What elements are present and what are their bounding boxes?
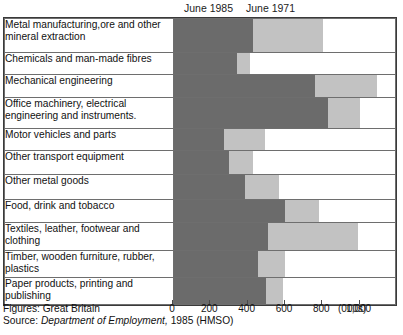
chart-row: Motor vehicles and parts <box>5 129 396 151</box>
bar-june-1971 <box>237 53 250 74</box>
footer-source-line: Source: Department of Employment, 1985 (… <box>3 315 263 327</box>
chart-row: Other metal goods <box>5 175 396 200</box>
chart-legend: June 1985 June 1971 <box>0 0 403 17</box>
row-category-label: Office machinery, electrical engineering… <box>5 98 174 129</box>
footer-figures-label: Figures: <box>3 303 40 314</box>
bar-june-1971 <box>224 129 265 150</box>
chart-row: Chemicals and man-made fibres <box>5 53 396 75</box>
chart-row: Food, drink and tobacco <box>5 200 396 223</box>
row-category-label: Other transport equipment <box>5 151 174 175</box>
row-bar-cell <box>174 151 396 175</box>
footer-source-year: 1985 (HMSO) <box>171 315 234 326</box>
row-bar-cell <box>174 175 396 200</box>
bar-june-1985 <box>174 251 258 277</box>
chart-row: Timber, wooden furniture, rubber, plasti… <box>5 251 396 278</box>
row-category-label: Food, drink and tobacco <box>5 200 174 223</box>
bar-june-1971 <box>315 75 377 97</box>
bar-june-1985 <box>174 75 315 97</box>
bar-june-1985 <box>174 175 245 199</box>
chart-row: Metal manufacturing,ore and other minera… <box>5 19 396 53</box>
bar-june-1971 <box>268 223 358 250</box>
row-category-label: Textiles, leather, footwear and clothing <box>5 223 174 251</box>
bar-june-1985 <box>174 19 253 52</box>
row-bar-cell <box>174 98 396 129</box>
row-bar-cell <box>174 53 396 75</box>
bar-june-1985 <box>174 53 237 74</box>
row-bar-cell <box>174 200 396 223</box>
bar-june-1971 <box>328 98 360 128</box>
row-category-label: Mechanical engineering <box>5 75 174 98</box>
axis-tick-label: 600 <box>276 303 293 314</box>
row-bar-cell <box>174 223 396 251</box>
row-bar-cell <box>174 19 396 53</box>
chart-row: Office machinery, electrical engineering… <box>5 98 396 129</box>
bar-june-1971 <box>253 19 323 52</box>
chart-rows-table: Metal manufacturing,ore and other minera… <box>4 18 396 305</box>
legend-label-june-1985: June 1985 <box>184 2 233 15</box>
row-category-label: Metal manufacturing,ore and other minera… <box>5 19 174 53</box>
row-bar-cell <box>174 75 396 98</box>
footer-figures-line: Figures: Great Britain <box>3 303 263 315</box>
figure-footer: Figures: Great Britain Source: Departmen… <box>3 303 263 328</box>
footer-source-publication: Department of Employment, <box>41 315 168 326</box>
legend-label-june-1971: June 1971 <box>246 2 295 15</box>
axis-tick-label: 800 <box>313 303 330 314</box>
bar-june-1971 <box>245 175 279 199</box>
bar-june-1985 <box>174 200 285 222</box>
row-category-label: Motor vehicles and parts <box>5 129 174 151</box>
row-category-label: Chemicals and man-made fibres <box>5 53 174 75</box>
footer-source-label: Source: <box>3 315 38 326</box>
bar-june-1985 <box>174 223 268 250</box>
chart-figure: June 1985 June 1971 Metal manufacturing,… <box>0 0 403 335</box>
chart-plot-area: Metal manufacturing,ore and other minera… <box>3 17 397 306</box>
bar-june-1971 <box>229 151 253 174</box>
bar-june-1985 <box>174 129 224 150</box>
bar-june-1985 <box>174 98 328 128</box>
chart-row: Mechanical engineering <box>5 75 396 98</box>
row-bar-cell <box>174 129 396 151</box>
row-category-label: Other metal goods <box>5 175 174 200</box>
bar-june-1971 <box>258 251 285 277</box>
bar-june-1985 <box>174 151 229 174</box>
axis-unit-label: (000s) <box>338 303 366 314</box>
footer-figures-value: Great Britain <box>43 303 100 314</box>
row-category-label: Timber, wooden furniture, rubber, plasti… <box>5 251 174 278</box>
row-bar-cell <box>174 251 396 278</box>
bar-june-1971 <box>285 200 319 222</box>
chart-row: Textiles, leather, footwear and clothing <box>5 223 396 251</box>
chart-row: Other transport equipment <box>5 151 396 175</box>
